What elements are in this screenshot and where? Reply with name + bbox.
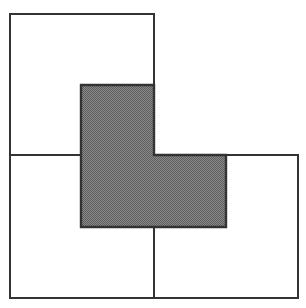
shaded-l-region [81,85,226,227]
l-shape-diagram [0,0,306,308]
